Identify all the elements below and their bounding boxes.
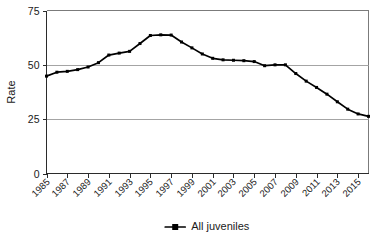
data-point <box>66 70 69 73</box>
legend-marker-swatch <box>172 224 178 230</box>
data-point <box>118 52 121 55</box>
data-point <box>97 61 100 64</box>
data-point <box>222 58 225 61</box>
data-point <box>87 66 90 69</box>
data-point <box>315 86 318 89</box>
data-point <box>128 50 131 53</box>
y-tick-label-75: 75 <box>28 5 40 17</box>
data-point <box>76 68 79 71</box>
legend-label-all-juveniles: All juveniles <box>191 220 250 232</box>
data-point <box>232 59 235 62</box>
data-point <box>367 115 370 118</box>
chart-canvas: 0255075 19851987198919911993199519971999… <box>0 0 379 245</box>
data-point <box>138 42 141 45</box>
data-point <box>253 60 256 63</box>
data-point <box>149 34 152 37</box>
data-point <box>336 100 339 103</box>
data-point <box>294 72 297 75</box>
data-point <box>325 93 328 96</box>
data-point <box>107 54 110 57</box>
data-point <box>55 71 58 74</box>
chart-background <box>0 0 379 245</box>
data-point <box>45 75 48 78</box>
data-point <box>211 57 214 60</box>
data-point <box>305 80 308 83</box>
data-point <box>180 41 183 44</box>
y-tick-label-25: 25 <box>28 113 40 125</box>
data-point <box>190 46 193 49</box>
y-tick-label-50: 50 <box>28 59 40 71</box>
data-point <box>284 63 287 66</box>
data-point <box>263 64 266 67</box>
data-point <box>346 108 349 111</box>
y-tick-label-0: 0 <box>34 168 40 180</box>
data-point <box>357 112 360 115</box>
data-point <box>201 52 204 55</box>
line-chart-figure: 0255075 19851987198919911993199519971999… <box>0 0 379 245</box>
data-point <box>274 63 277 66</box>
data-point <box>170 34 173 37</box>
y-axis-title: Rate <box>5 80 17 103</box>
data-point <box>159 33 162 36</box>
data-point <box>242 59 245 62</box>
